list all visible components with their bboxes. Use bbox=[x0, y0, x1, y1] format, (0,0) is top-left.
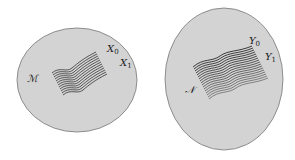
right-manifold: 𝒩 Y0 Y1 bbox=[165, 8, 283, 150]
diagram: ℳ X0 X1 𝒩 Y0 Y1 bbox=[0, 0, 295, 160]
label-M: ℳ bbox=[27, 73, 39, 84]
left-manifold: ℳ X0 X1 bbox=[17, 28, 137, 132]
